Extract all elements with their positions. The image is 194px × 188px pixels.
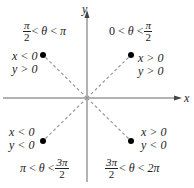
q3-op2: < [48, 161, 55, 176]
q4-condition-x: x > 0 [141, 126, 166, 138]
q1-var: θ [128, 24, 134, 39]
q2-condition-y: y > 0 [12, 63, 37, 75]
q4-range: 3π2 < θ < 2π [104, 157, 160, 180]
q2-left-den: 2 [23, 32, 31, 43]
q1-range: 0 < θ < π2 [109, 20, 153, 43]
x-axis-label: x [184, 92, 189, 104]
x-axis-arrow-icon [174, 96, 182, 101]
point-q4 [128, 138, 134, 144]
q1-condition-x: x > 0 [138, 52, 163, 64]
q2-op2: < [50, 24, 57, 39]
q4-left-den: 2 [108, 169, 116, 180]
q1-op2: < [137, 24, 144, 39]
q1-op1: < [118, 24, 125, 39]
ray-q1 [87, 55, 131, 98]
q3-var: θ [39, 161, 45, 176]
q2-right: π [60, 24, 66, 39]
ray-q4 [87, 98, 131, 141]
q4-right: 2π [147, 161, 159, 176]
y-axis-label: y [82, 3, 87, 15]
q3-left: π [20, 161, 26, 176]
q2-condition-x: x < 0 [12, 50, 37, 62]
q3-op1: < [29, 161, 36, 176]
ray-q2 [43, 55, 87, 98]
q4-condition-y: y < 0 [141, 139, 166, 151]
q4-var: θ [129, 161, 135, 176]
q1-right-den: 2 [144, 32, 152, 43]
point-q3 [40, 138, 46, 144]
q2-op1: < [32, 24, 39, 39]
q4-op1: < [119, 161, 126, 176]
q3-condition-x: x < 0 [9, 126, 34, 138]
q3-condition-y: y < 0 [9, 139, 34, 151]
q4-op2: < [138, 161, 145, 176]
q3-right-den: 2 [58, 169, 66, 180]
point-q1 [128, 52, 134, 58]
q1-condition-y: y > 0 [138, 65, 163, 77]
q1-left: 0 [109, 24, 115, 39]
ray-q3 [43, 98, 87, 141]
q2-var: θ [41, 24, 47, 39]
q3-range: π < θ < 3π2 [20, 157, 70, 180]
point-q2 [40, 52, 46, 58]
q2-range: π2 < θ < π [22, 20, 66, 43]
